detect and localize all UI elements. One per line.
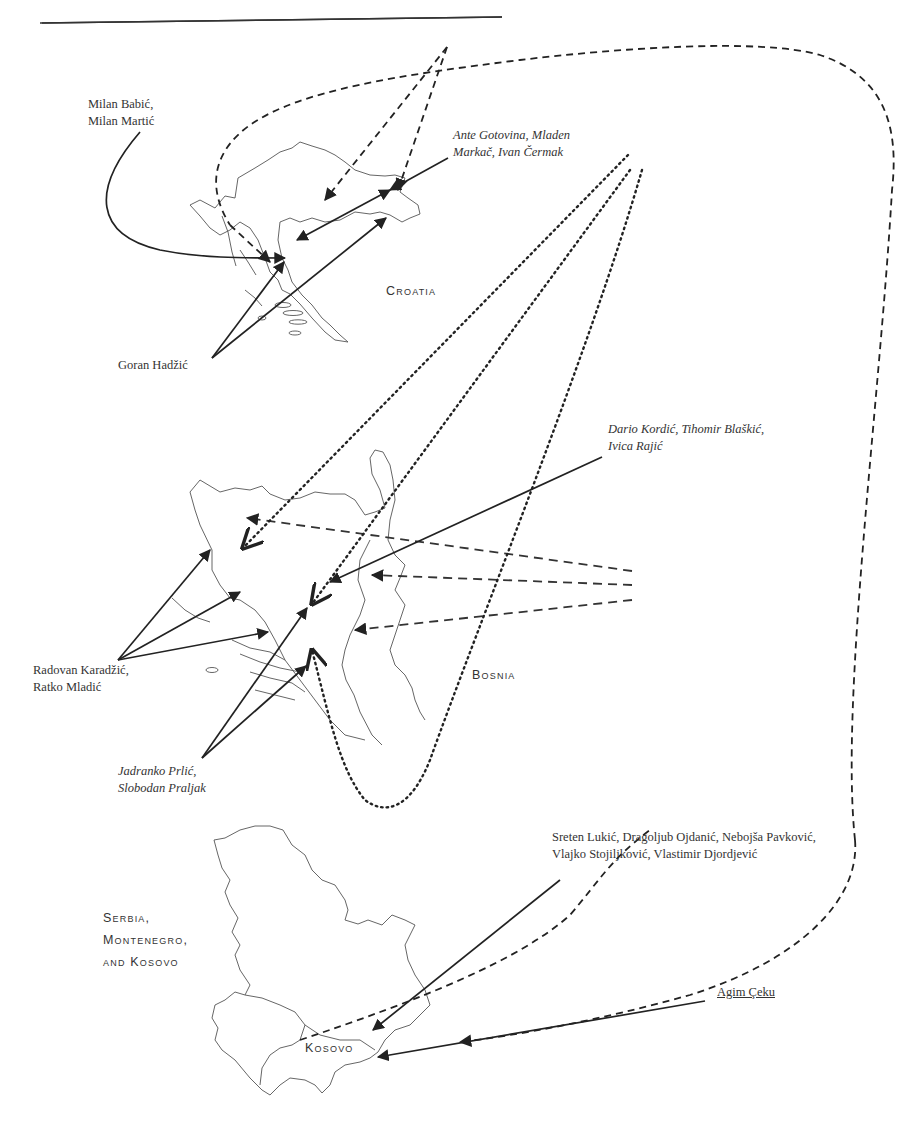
- label-karadzic-mladic: Radovan Karadžić, Ratko Mladić: [33, 662, 129, 696]
- label-hadzic: Goran Hadžić: [118, 357, 188, 374]
- label-babic-martic: Milan Babić, Milan Martić: [88, 96, 154, 130]
- croatia-map: [190, 142, 420, 342]
- region-bosnia: Bosnia: [472, 667, 516, 684]
- influence-diagram: Milan Babić, Milan Martić Ante Gotovina,…: [0, 0, 912, 1128]
- individual-arrows: [106, 132, 705, 1057]
- label-prlic-praljak: Jadranko Prlić, Slobodan Praljak: [118, 763, 206, 797]
- serbia-influence-arrows: [247, 518, 632, 630]
- region-kosovo: Kosovo: [305, 1040, 354, 1057]
- serbia-influence-loop: [216, 46, 894, 1040]
- region-serbia-montenegro-kosovo: Serbia, Montenegro, and Kosovo: [103, 907, 188, 973]
- bosnia-map: [172, 450, 425, 745]
- label-gotovina-markac-cermak: Ante Gotovina, Mladen Markač, Ivan Čerma…: [453, 127, 570, 161]
- label-kordic-blaskic-rajic: Dario Kordić, Tihomir Blaškić, Ivica Raj…: [608, 421, 764, 455]
- label-ceku: Agim Çeku: [717, 984, 775, 1001]
- region-croatia: Croatia: [386, 283, 436, 300]
- label-lukic-ojdanic-pavkovic: Sreten Lukić, Dragoljub Ojdanić, Nebojša…: [552, 829, 816, 863]
- croatia-influence-arrows: [243, 155, 642, 807]
